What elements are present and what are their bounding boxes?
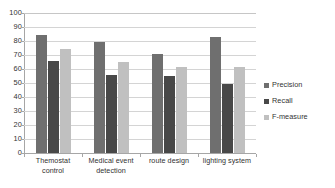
y-axis-tick-label: 40 <box>0 93 22 101</box>
y-axis-tick-label: 10 <box>0 135 22 143</box>
x-axis-tick-mark <box>198 154 199 157</box>
bar-f-measure <box>118 62 129 153</box>
bar-precision <box>210 37 221 153</box>
y-axis-tick-label: 100 <box>0 9 22 17</box>
y-axis-tick-label: 70 <box>0 51 22 59</box>
x-axis-tick-label: lighting system <box>194 156 260 166</box>
x-axis-tick-mark <box>140 154 141 157</box>
bar-groups <box>24 13 256 153</box>
bar-recall <box>48 61 59 153</box>
x-axis-tick-label: route design <box>136 156 202 166</box>
y-axis-tick-label: 30 <box>0 107 22 115</box>
bar-recall <box>106 75 117 153</box>
x-axis-tick-label: Themostatcontrol <box>20 156 86 175</box>
x-axis-tick-mark <box>82 154 83 157</box>
bar-chart: 1009080706050403020100 ThemostatcontrolM… <box>0 0 335 188</box>
x-axis-tick-mark <box>24 154 25 157</box>
bar-f-measure <box>176 67 187 153</box>
legend-item-f-measure[interactable]: F-measure <box>264 112 308 122</box>
legend-label: F-measure <box>272 113 308 121</box>
bar-group <box>94 13 129 153</box>
bar-precision <box>94 42 105 153</box>
legend-label: Recall <box>272 97 293 105</box>
bar-f-measure <box>60 49 71 153</box>
y-axis-tick-label: 50 <box>0 79 22 87</box>
y-axis: 1009080706050403020100 <box>0 7 22 159</box>
bar-precision <box>36 35 47 153</box>
y-axis-tick-label: 90 <box>0 23 22 31</box>
x-axis-tick-label-line: Medical event <box>78 156 144 166</box>
legend-item-precision[interactable]: Precision <box>264 80 302 90</box>
bar-f-measure <box>234 67 245 153</box>
bar-group <box>36 13 71 153</box>
legend-swatch-icon <box>264 115 269 120</box>
x-axis-tick-mark <box>256 154 257 157</box>
y-axis-tick-label: 0 <box>0 149 22 157</box>
legend-swatch-icon <box>264 99 269 104</box>
chart-legend: PrecisionRecallF-measure <box>264 80 335 126</box>
plot-area <box>24 13 256 153</box>
x-axis-tick-label-line: Themostat <box>20 156 86 166</box>
y-axis-tick-label: 20 <box>0 121 22 129</box>
y-axis-tick-label: 80 <box>0 37 22 45</box>
bar-recall <box>164 76 175 153</box>
bar-precision <box>152 54 163 153</box>
x-axis-tick-label: Medical eventdetection <box>78 156 144 175</box>
x-axis-category-labels: ThemostatcontrolMedical eventdetectionro… <box>24 156 256 186</box>
bar-group <box>210 13 245 153</box>
x-axis-tick-label-line: lighting system <box>194 156 260 166</box>
legend-item-recall[interactable]: Recall <box>264 96 293 106</box>
x-axis-tick-label-line: control <box>20 166 86 176</box>
x-axis-tick-label-line: route design <box>136 156 202 166</box>
legend-swatch-icon <box>264 83 269 88</box>
bar-recall <box>222 84 233 153</box>
legend-label: Precision <box>272 81 302 89</box>
bar-group <box>152 13 187 153</box>
y-axis-tick-label: 60 <box>0 65 22 73</box>
x-axis-tick-label-line: detection <box>78 166 144 176</box>
